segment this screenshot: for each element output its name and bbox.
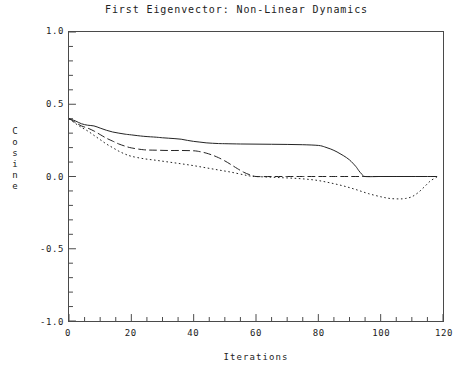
- x-tick-label: 60: [234, 328, 278, 338]
- x-axis-tick-labels: 020406080100120: [0, 328, 473, 342]
- plot-canvas: [69, 32, 443, 321]
- y-tick-label: -0.5: [24, 244, 64, 254]
- x-tick-label: 20: [109, 328, 153, 338]
- y-tick-label: -1.0: [24, 317, 64, 327]
- x-axis-title: Iterations: [68, 352, 444, 362]
- series-dashed-curve: [69, 119, 437, 177]
- x-tick-label: 80: [297, 328, 341, 338]
- y-tick-label: 0.5: [24, 99, 64, 109]
- series-solid-curve: [69, 119, 437, 177]
- x-tick-label: 0: [46, 328, 90, 338]
- y-tick-label: 1.0: [24, 26, 64, 36]
- chart-title: First Eigenvector: Non-Linear Dynamics: [0, 4, 473, 15]
- x-tick-label: 100: [359, 328, 403, 338]
- series-dotted-curve: [69, 119, 437, 199]
- x-tick-label: 120: [422, 328, 466, 338]
- plot-area: [68, 31, 444, 322]
- y-axis-tick-labels: -1.0-0.50.00.51.0: [20, 0, 64, 378]
- y-tick-label: 0.0: [24, 172, 64, 182]
- chart-figure: First Eigenvector: Non-Linear Dynamics C…: [0, 0, 473, 378]
- x-tick-label: 40: [171, 328, 215, 338]
